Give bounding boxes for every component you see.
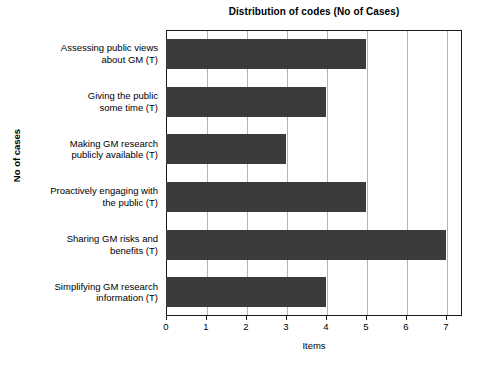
x-axis-tick-mark — [206, 316, 207, 320]
y-axis-tick-label-line: Sharing GM risks and — [14, 233, 158, 245]
x-axis-tick-label: 0 — [154, 321, 178, 332]
x-axis-tick-label: 5 — [354, 321, 378, 332]
x-axis-tick-label: 3 — [274, 321, 298, 332]
y-axis-tick-label-line: Assessing public views — [14, 42, 158, 54]
bar — [166, 87, 326, 117]
y-axis-tick-label: Giving the publicsome time (T) — [14, 90, 158, 113]
bar — [166, 277, 326, 307]
x-axis-tick-mark — [166, 316, 167, 320]
bar-chart: Distribution of codes (No of Cases) No o… — [0, 0, 478, 368]
y-axis-tick-label: Sharing GM risks andbenefits (T) — [14, 233, 158, 256]
bars-group — [166, 30, 462, 316]
x-axis-tick-label: 4 — [314, 321, 338, 332]
x-axis-tick-label: 6 — [394, 321, 418, 332]
y-axis-tick-label-line: Simplifying GM research — [14, 281, 158, 293]
y-axis-tick-label: Making GM researchpublicly available (T) — [14, 138, 158, 161]
x-axis-tick-mark — [246, 316, 247, 320]
bar — [166, 134, 286, 164]
x-axis-tick-label: 1 — [194, 321, 218, 332]
x-axis-tick-mark — [406, 316, 407, 320]
y-axis-tick-label-line: information (T) — [14, 292, 158, 304]
y-axis-tick-labels: Assessing public viewsabout GM (T)Giving… — [14, 30, 162, 316]
x-axis-tick-mark — [326, 316, 327, 320]
x-axis-tick-mark — [446, 316, 447, 320]
y-axis-tick-label-line: some time (T) — [14, 102, 158, 114]
bar — [166, 39, 366, 69]
chart-title: Distribution of codes (No of Cases) — [166, 6, 462, 18]
y-axis-tick-label: Simplifying GM researchinformation (T) — [14, 281, 158, 304]
x-axis-ticks: 01234567 — [166, 316, 462, 338]
bar — [166, 230, 446, 260]
x-axis-tick-label: 2 — [234, 321, 258, 332]
x-axis-title: Items — [166, 340, 462, 351]
y-axis-tick-label-line: benefits (T) — [14, 245, 158, 257]
x-axis-tick-mark — [286, 316, 287, 320]
y-axis-tick-label-line: Giving the public — [14, 90, 158, 102]
y-axis-tick-label: Assessing public viewsabout GM (T) — [14, 42, 158, 65]
x-axis-tick-label: 7 — [434, 321, 458, 332]
y-axis-tick-label-line: publicly available (T) — [14, 149, 158, 161]
y-axis-tick-label-line: Proactively engaging with — [14, 185, 158, 197]
y-axis-tick-label-line: about GM (T) — [14, 54, 158, 66]
y-axis-tick-label-line: Making GM research — [14, 138, 158, 150]
y-axis-tick-label: Proactively engaging withthe public (T) — [14, 185, 158, 208]
y-axis-tick-label-line: the public (T) — [14, 197, 158, 209]
bar — [166, 182, 366, 212]
x-axis-tick-mark — [366, 316, 367, 320]
